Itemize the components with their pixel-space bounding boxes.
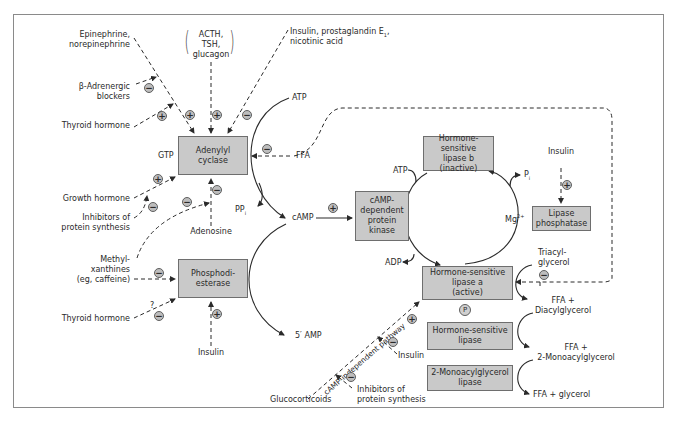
ffa-diacylglycerol-label: FFA + Diacylglycerol [530, 296, 596, 316]
glucocorticoids-label: Glucocorticoids [270, 395, 332, 405]
insulin-pge-text: Insulin, prostaglandin E [290, 27, 384, 36]
question-mark-label: ? [150, 301, 154, 311]
mg-sup: 2+ [517, 213, 524, 219]
adp-cycle-label: ADP [385, 258, 401, 268]
phosphodiesterase-label: Phosphodi- esterase [191, 269, 235, 289]
lipolysis-diagram: Adenylyl cyclase Phosphodi- esterase cAM… [0, 0, 678, 426]
ppi-text: PP [235, 205, 245, 214]
mag-lipase-label: 2-Monoacylglycerol lipase [431, 368, 509, 388]
inhibitors-protein-synthesis-left-label: Inhibitors of protein synthesis [40, 213, 130, 233]
acth-tsh-glucagon-label: ACTH, TSH, glucagon [188, 30, 234, 60]
mag-lipase-box: 2-Monoacylglycerol lipase [427, 365, 513, 391]
minus-sign-icon: − [388, 337, 398, 347]
hsl-label: Hormone-sensitive lipase [432, 326, 507, 346]
plus-sign-icon: + [562, 180, 572, 190]
atp-cycle-label: ATP [393, 166, 408, 176]
nicotinic-acid-label: nicotinic acid [290, 37, 343, 47]
minus-sign-icon: − [262, 144, 272, 154]
minus-sign-icon: − [144, 83, 154, 93]
right-paren: ) [230, 28, 235, 54]
minus-sign-icon: − [148, 202, 158, 212]
minus-sign-icon: − [242, 110, 252, 120]
pi-label: Pi [524, 170, 530, 183]
pi-sub: i [529, 175, 530, 181]
ffa-monoacylglycerol-label: FFA + 2-Monoacylglycerol [534, 343, 618, 363]
camp-label: cAMP [292, 213, 314, 223]
epinephrine-label: Epinephrine, norepinephrine [60, 30, 130, 50]
phosphodiesterase-box: Phosphodi- esterase [178, 259, 248, 298]
minus-sign-icon: − [154, 311, 164, 321]
ffa-top-label: FFA [296, 151, 310, 161]
hsl-box: Hormone-sensitive lipase [427, 322, 513, 350]
triacylglycerol-label: Triacyl- glycerol [538, 248, 570, 268]
plus-sign-icon: + [157, 111, 167, 121]
plus-sign-icon: + [328, 203, 338, 213]
minus-sign-icon: − [539, 270, 549, 280]
camp-kinase-box: cAMP- dependent protein kinase [355, 191, 409, 241]
minus-sign-icon: − [154, 268, 164, 278]
ffa-glycerol-label: FFA + glycerol [533, 390, 590, 400]
plus-sign-icon: + [212, 110, 222, 120]
mg-label: Mg2+ [505, 211, 524, 225]
five-amp-label: 5′ AMP [295, 331, 322, 341]
insulin-pge-comma: , [387, 27, 390, 36]
plus-sign-icon: + [212, 309, 222, 319]
ppi-sub: i [245, 210, 246, 216]
hsl-a-box: Hormone-sensitive lipase a (active) [422, 266, 513, 300]
inhibitors-protein-synthesis-right-label: Inhibitors of protein synthesis [357, 385, 426, 405]
lipase-phosphatase-box: Lipase phosphatase [532, 206, 591, 231]
hsl-b-box: Hormone-sensitive lipase b (inactive) [423, 136, 494, 171]
beta-blockers-label: β-Adrenergic blockers [60, 82, 130, 102]
mg-text: Mg [505, 215, 517, 224]
hsl-b-label: Hormone-sensitive lipase b (inactive) [424, 134, 493, 174]
minus-sign-icon: − [212, 185, 222, 195]
methylxanthines-label: Methyl- xanthines (eg, caffeine) [60, 255, 130, 285]
growth-hormone-label: Growth hormone [40, 194, 130, 204]
camp-kinase-label: cAMP- dependent protein kinase [360, 196, 403, 236]
lipase-phosphatase-label: Lipase phosphatase [536, 209, 587, 229]
hsl-a-label: Hormone-sensitive lipase a (active) [430, 268, 505, 298]
phosphate-icon: P [459, 304, 471, 316]
insulin-phosphatase-label: Insulin [541, 147, 581, 157]
adenylyl-cyclase-label: Adenylyl cyclase [196, 146, 230, 166]
plus-sign-icon: + [153, 174, 163, 184]
thyroid-hormone-bottom-label: Thyroid hormone [40, 314, 130, 324]
insulin-hsl-label: Insulin [398, 351, 424, 361]
plus-sign-icon: + [185, 110, 195, 120]
insulin-pde-label: Insulin [190, 348, 232, 358]
ppi-label: PPi [235, 205, 246, 218]
gtp-label: GTP [158, 151, 174, 161]
atp-top-label: ATP [292, 93, 307, 103]
plus-sign-icon: + [407, 314, 417, 324]
minus-sign-icon: − [346, 372, 356, 382]
adenylyl-cyclase-box: Adenylyl cyclase [178, 136, 248, 175]
thyroid-hormone-top-label: Thyroid hormone [40, 121, 130, 131]
minus-sign-icon: − [182, 197, 192, 207]
adenosine-label: Adenosine [186, 227, 236, 237]
